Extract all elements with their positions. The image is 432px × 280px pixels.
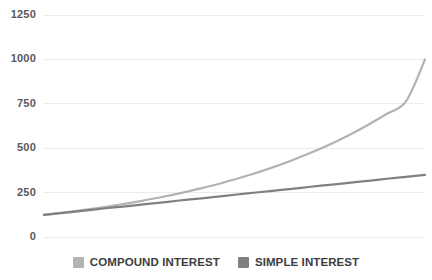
data-series: [44, 59, 425, 214]
legend-label: SIMPLE INTEREST: [255, 256, 359, 268]
series-line-compound-interest: [44, 59, 425, 214]
chart-legend: COMPOUND INTERESTSIMPLE INTEREST: [0, 248, 432, 276]
legend-item-compound-interest[interactable]: COMPOUND INTEREST: [73, 256, 220, 268]
y-tick-label-750: 750: [0, 98, 36, 109]
chart-canvas: [0, 0, 432, 246]
legend-label: COMPOUND INTEREST: [90, 256, 220, 268]
legend-item-simple-interest[interactable]: SIMPLE INTEREST: [238, 256, 359, 268]
y-tick-label-0: 0: [0, 231, 36, 242]
plot-area: 125010007505002500: [0, 0, 432, 246]
y-tick-label-1250: 1250: [0, 9, 36, 20]
interest-growth-line-chart: 125010007505002500 COMPOUND INTERESTSIMP…: [0, 0, 432, 280]
series-line-simple-interest: [44, 175, 425, 215]
simple-interest-swatch: [238, 257, 249, 268]
y-tick-label-250: 250: [0, 187, 36, 198]
y-tick-label-1000: 1000: [0, 53, 36, 64]
y-tick-label-500: 500: [0, 142, 36, 153]
compound-interest-swatch: [73, 257, 84, 268]
